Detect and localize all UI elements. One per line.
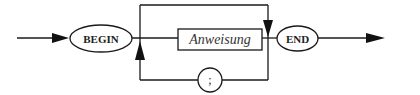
syntax-diagram: BEGIN Anweisung ; END [0,0,420,95]
end-label: END [286,33,309,45]
exit-arrow [318,33,385,43]
begin-label: BEGIN [83,33,119,45]
semicolon-label: ; [208,73,211,87]
anweisung-nonterminal: Anweisung [178,29,262,50]
begin-terminal: BEGIN [70,25,132,52]
end-terminal: END [277,26,318,51]
arrowhead-down-icon [263,20,273,37]
right-loop-branch [263,5,273,80]
anweisung-label: Anweisung [188,32,250,47]
left-loop-branch [135,5,145,80]
semicolon-terminal: ; [198,68,222,92]
arrowhead-right-icon [366,33,385,43]
entry-arrow [17,33,69,43]
arrowhead-right-icon [52,33,69,43]
arrowhead-up-icon [135,41,145,60]
